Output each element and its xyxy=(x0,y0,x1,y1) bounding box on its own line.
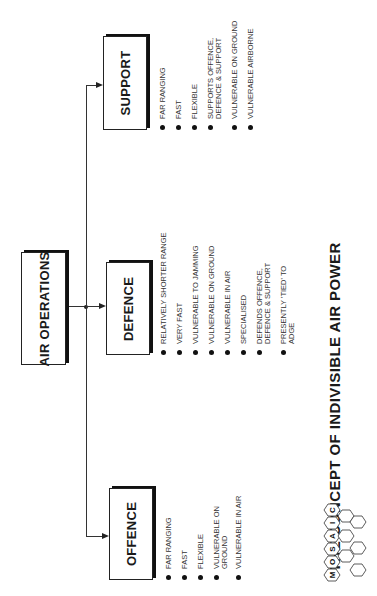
bullet-icon xyxy=(232,125,237,130)
bullet-item: VULNERABLE AIRBORNE xyxy=(247,21,263,130)
bullet-icon xyxy=(198,575,203,580)
arrow-to-defence-icon xyxy=(99,303,106,309)
bullet-item: FLEXIBLE xyxy=(191,21,207,130)
bullet-item: VULNERABLE ON GROUND xyxy=(231,21,247,130)
root-node-label: AIR OPERATIONS xyxy=(36,251,51,366)
bullet-icon xyxy=(192,125,197,130)
bullet-icon xyxy=(160,125,165,130)
bullet-item: FAR RANGING xyxy=(165,496,181,580)
bullet-item: SPECIALISED xyxy=(240,232,256,355)
mosaic-logo-icon: C I A S O M xyxy=(318,502,368,584)
logo-letter: I xyxy=(328,522,337,524)
connector-trunk-to-offence xyxy=(86,536,103,537)
offence-bullet-list: FAR RANGING FAST FLEXIBLE VULNERABLE ON … xyxy=(165,496,251,580)
bullet-icon xyxy=(177,350,182,355)
bullet-icon xyxy=(176,125,181,130)
bullet-item: PRESENTLY 'TIED' TO ADGE xyxy=(280,232,300,355)
bullet-icon xyxy=(182,575,187,580)
bullet-icon xyxy=(281,350,286,355)
node-support-label: SUPPORT xyxy=(118,51,133,116)
connector-trunk-to-defence xyxy=(86,306,100,307)
node-offence-label: OFFENCE xyxy=(124,502,139,566)
bullet-item: RELATIVELY SHORTER RANGE xyxy=(160,232,176,355)
node-support: SUPPORT xyxy=(103,36,147,130)
bullet-icon xyxy=(236,575,241,580)
bullet-icon xyxy=(161,350,166,355)
bullet-item: FLEXIBLE xyxy=(197,496,213,580)
bullet-icon xyxy=(257,350,262,355)
bullet-item: VERY FAST xyxy=(176,232,192,355)
logo-letter: M xyxy=(328,571,337,578)
connector-trunk-vertical xyxy=(86,85,87,537)
bullet-icon xyxy=(225,350,230,355)
bullet-icon xyxy=(193,350,198,355)
bullet-item: DEFENDS OFFENCE, DEFENCE & SUPPORT xyxy=(256,232,280,355)
bullet-item: VULNERABLE IN AIR xyxy=(235,496,251,580)
defence-bullet-list: RELATIVELY SHORTER RANGE VERY FAST VULNE… xyxy=(160,232,300,355)
bullet-icon xyxy=(248,125,253,130)
logo-letter: O xyxy=(328,559,337,565)
bullet-item: FAST xyxy=(181,496,197,580)
node-offence: OFFENCE xyxy=(109,488,153,580)
logo-letter: S xyxy=(328,546,337,552)
bullet-item: VULNERABLE ON GROUND xyxy=(208,232,224,355)
bullet-item: FAST xyxy=(175,21,191,130)
bullet-item: VULNERABLE IN AIR xyxy=(224,232,240,355)
bullet-item: FAR RANGING xyxy=(159,21,175,130)
root-node-air-operations: AIR OPERATIONS xyxy=(21,252,66,365)
node-defence-label: DEFENCE xyxy=(121,276,136,340)
arrow-to-support-icon xyxy=(96,82,103,88)
node-defence: DEFENCE xyxy=(106,262,150,355)
arrow-to-offence-icon xyxy=(102,533,109,539)
bullet-icon xyxy=(209,350,214,355)
support-bullet-list: FAR RANGING FAST FLEXIBLE SUPPORTS OFFEN… xyxy=(159,21,263,130)
bullet-icon xyxy=(166,575,171,580)
bullet-item: VULNERABLE TO JAMMING xyxy=(192,232,208,355)
logo-letter: C xyxy=(328,507,337,513)
connector-root-to-trunk xyxy=(66,306,86,307)
bullet-icon xyxy=(208,125,213,130)
bullet-item: SUPPORTS OFFENCE, DEFENCE & SUPPORT xyxy=(207,21,231,130)
bullet-item: VULNERABLE ON GROUND xyxy=(213,496,235,580)
bullet-icon xyxy=(241,350,246,355)
bullet-icon xyxy=(214,575,219,580)
logo-letter: A xyxy=(328,533,337,539)
